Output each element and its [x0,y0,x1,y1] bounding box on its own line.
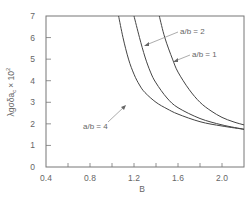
annotation-ab2: a/b = 2 [180,27,205,36]
y-axis-ticks: 01234567 [30,11,51,172]
annotation-ab1: a/b = 1 [192,50,217,59]
x-tick-label: 2.0 [216,173,228,183]
svg-text:λgσδac× 102: λgσδac× 102 [5,67,17,116]
y-tick-label: 7 [30,11,35,21]
annotation-ab4: a/b = 4 [83,122,108,131]
y-tick-label: 0 [30,162,35,172]
y-axis-label: λgσδac× 102 [5,67,17,116]
x-tick-label: 1.2 [128,173,140,183]
plot-frame [46,16,244,167]
arrowhead-icon [144,42,149,46]
chart: 0.40.81.21.62.0 01234567 B λgσδac× 102 a… [0,0,252,203]
x-tick-label: 0.8 [84,173,96,183]
x-axis-ticks: 0.40.81.21.62.0 [40,163,228,183]
x-axis-label: B [139,184,145,194]
annotation-ab2-arrow [146,32,178,45]
x-tick-label: 1.6 [172,173,184,183]
y-tick-label: 6 [30,33,35,43]
arrowhead-icon [173,58,178,62]
y-tick-label: 4 [30,76,35,86]
y-tick-label: 3 [30,97,35,107]
y-tick-label: 1 [30,140,35,150]
y-tick-label: 2 [30,119,35,129]
x-tick-label: 0.4 [40,173,52,183]
y-tick-label: 5 [30,54,35,64]
annotation-ab4-arrow [108,107,124,122]
